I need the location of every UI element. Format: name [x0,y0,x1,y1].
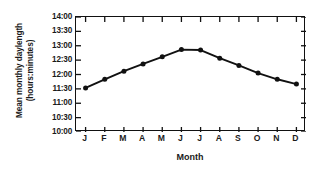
y-axis-title-line1: Mean monthly daylength [15,22,25,117]
data-point-marker: November: 11:50 [275,77,280,82]
x-axis-tick-label: A [139,133,145,143]
data-point-marker: September: 12:19 [236,63,241,68]
x-axis-tick-label: A [216,133,222,143]
y-axis-tick-labels: 14:0013:3013:0012:3012:0011:3011:0010:30… [40,16,72,131]
data-point-marker: July: 12:51 [198,48,203,53]
data-point-marker: August: 12:34 [217,56,222,61]
data-point-marker: February: 11:50 [102,77,107,82]
x-axis-tick-label: D [292,133,298,143]
x-axis-tick-label: O [254,133,261,143]
y-axis-tick-label: 12:00 [52,69,72,78]
x-axis-tick-label: F [101,133,106,143]
y-axis-tick-label: 12:30 [52,55,72,64]
data-point-marker: April: 12:22 [141,61,146,66]
data-point-marker: March: 12:07 [121,69,126,74]
data-line [86,50,297,88]
data-point-marker: May: 12:37 [160,54,165,59]
x-axis-tick-labels: JFMAMJJASOND [75,133,305,146]
y-axis-tick-label: 11:30 [53,83,73,92]
x-axis-tick-label: J [197,133,202,143]
data-point-marker: June: 12:52 [179,47,184,52]
x-axis-tick-label: M [119,133,126,143]
y-axis-tick-label: 10:30 [52,112,72,121]
y-axis-tick-label: 14:00 [52,12,72,21]
data-point-marker: October: 12:03 [256,71,261,76]
x-axis-tick-label: J [82,133,87,143]
y-axis-tick-label: 13:30 [52,26,72,35]
x-axis-tick-label: J [178,133,183,143]
y-axis-tick-label: 13:00 [52,40,72,49]
chart-figure: Mean monthly daylength (hours:minutes) 1… [0,0,323,176]
y-axis-title-line2: (hours:minutes) [25,22,36,117]
y-axis-tick-label: 11:00 [53,98,73,107]
y-axis-title: Mean monthly daylength (hours:minutes) [8,0,42,140]
data-point-marker: December: 11:40 [294,82,299,87]
data-series-svg: January: 11:32February: 11:50March: 12:0… [76,17,306,132]
y-axis-tick-label: 10:00 [52,127,72,136]
x-axis-title: Month [75,152,305,162]
x-axis-tick-label: M [158,133,165,143]
x-axis-tick-label: S [235,133,241,143]
data-point-marker: January: 11:32 [83,85,88,90]
x-axis-tick-label: N [273,133,279,143]
plot-area: January: 11:32February: 11:50March: 12:0… [75,16,305,131]
